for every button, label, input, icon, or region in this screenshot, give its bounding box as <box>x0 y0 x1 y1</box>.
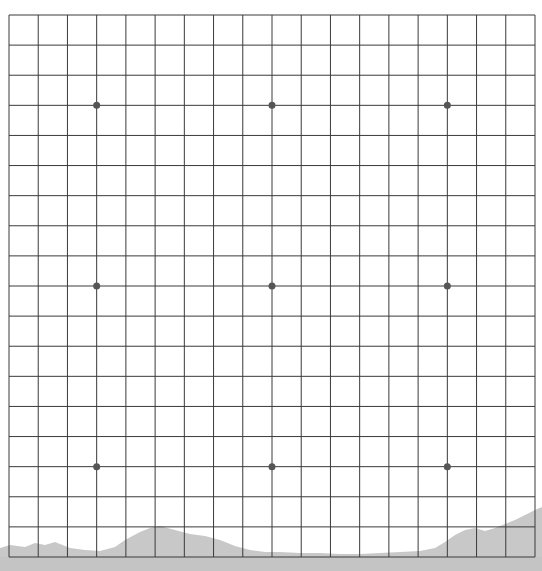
star-point <box>444 463 451 470</box>
star-point <box>269 283 276 290</box>
star-point <box>444 283 451 290</box>
star-point <box>93 463 100 470</box>
star-point <box>93 283 100 290</box>
star-point <box>269 102 276 109</box>
star-point <box>269 463 276 470</box>
star-point <box>444 102 451 109</box>
star-point <box>93 102 100 109</box>
go-board[interactable] <box>0 0 542 571</box>
